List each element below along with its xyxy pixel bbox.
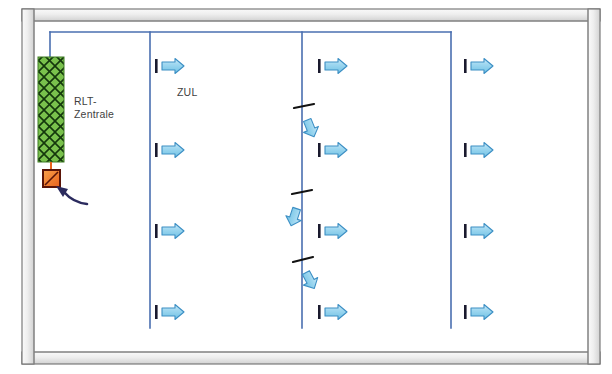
diagram-canvas: RLT- Zentrale ZUL [0, 0, 612, 374]
damper-1 [294, 104, 321, 140]
label-zul: ZUL [177, 86, 197, 99]
label-rlt-zentrale: RLT- Zentrale [74, 95, 114, 121]
damper-layer [0, 0, 612, 374]
damper-2 [283, 190, 312, 228]
damper-3 [293, 257, 321, 292]
